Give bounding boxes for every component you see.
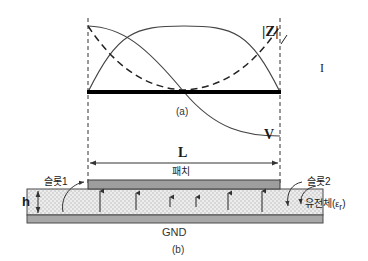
impedance-label: |Z| (262, 24, 279, 39)
dielectric-label: 유전체(εr) (305, 199, 345, 211)
voltage-label: V (264, 128, 274, 142)
substrate-height-label: h (22, 195, 30, 208)
slot2-label: 슬롯2 (307, 177, 331, 187)
ground-plane (27, 215, 323, 223)
impedance-leader (281, 35, 287, 44)
antenna-figure: |Z| I V (a) L 슬롯1 슬롯2 패치 h 유전체(εr) GND (… (0, 0, 368, 261)
current-label: I (320, 62, 324, 74)
voltage-curve (88, 26, 280, 136)
dielectric-substrate (27, 189, 323, 215)
impedance-curve (88, 26, 280, 90)
panel-a-caption: (a) (176, 107, 188, 117)
figure-canvas (0, 0, 368, 261)
ground-label: GND (162, 227, 186, 238)
current-curve (88, 26, 280, 92)
slot1-label: 슬롯1 (44, 177, 68, 187)
panel-b-caption: (b) (172, 245, 184, 255)
dielectric-label-text: 유전체( (305, 198, 335, 209)
patch-label: 패치 (172, 167, 190, 177)
patch-conductor (88, 180, 280, 189)
length-label: L (178, 146, 187, 160)
dielectric-label-close: ) (342, 198, 345, 209)
